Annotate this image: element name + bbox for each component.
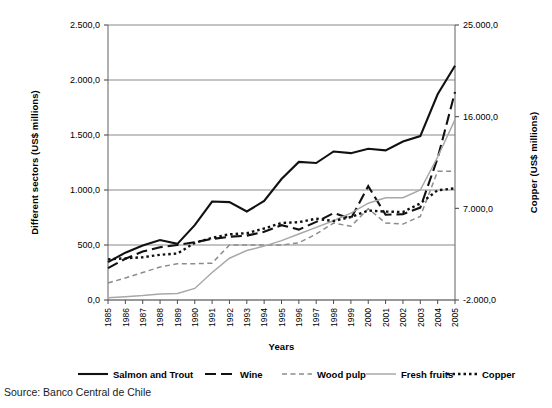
x-tick-label: 2005 <box>450 308 460 327</box>
x-tick-label: 1997 <box>311 308 321 327</box>
y-axis-title: Different sectors (US$ millions) <box>29 90 40 235</box>
x-axis-tick-labels: 1985198619871988198919901991199219931994… <box>103 308 460 327</box>
y-tick-label: 2.000,0 <box>70 75 100 85</box>
y-tick-label: 1.500,0 <box>70 130 100 140</box>
x-tick-label: 2004 <box>433 308 443 327</box>
y-tick-label: 500,0 <box>77 240 100 250</box>
line-chart: 0,0500,01.000,01.500,02.000,02.500,0 -2.… <box>0 0 552 408</box>
x-tick-label: 1992 <box>225 308 235 327</box>
x-tick-label: 1996 <box>294 308 304 327</box>
x-axis-ticks <box>108 300 455 304</box>
series-line-fresh-fruits <box>108 120 455 298</box>
legend-label-copper: Copper <box>482 369 516 380</box>
legend-label-salmon-and-trout: Salmon and Trout <box>113 369 194 380</box>
x-tick-label: 1998 <box>329 308 339 327</box>
y2-axis-ticks: -2.000,07.000,016.000,025.000,0 <box>455 20 498 305</box>
x-tick-label: 2002 <box>398 308 408 327</box>
chart-legend: Salmon and TroutWineWood pulpFresh fruit… <box>78 369 516 380</box>
y2-tick-label: 7.000,0 <box>463 204 493 214</box>
legend-label-wood-pulp: Wood pulp <box>317 369 366 380</box>
chart-figure: 0,0500,01.000,01.500,02.000,02.500,0 -2.… <box>0 0 552 408</box>
data-series <box>108 66 455 298</box>
y2-tick-label: 16.000,0 <box>463 112 498 122</box>
series-line-wood-pulp <box>108 171 455 283</box>
y2-axis-title: Copper (US$ millions) <box>528 112 539 213</box>
x-tick-label: 1999 <box>346 308 356 327</box>
plot-border <box>108 25 455 300</box>
legend-label-fresh-fruits: Fresh fruits <box>401 369 453 380</box>
x-tick-label: 1995 <box>277 308 287 327</box>
x-tick-label: 2003 <box>416 308 426 327</box>
y-tick-label: 2.500,0 <box>70 20 100 30</box>
y2-tick-label: 25.000,0 <box>463 20 498 30</box>
x-tick-label: 2001 <box>381 308 391 327</box>
x-axis-title: Years <box>269 341 295 352</box>
y-tick-label: 1.000,0 <box>70 185 100 195</box>
y-tick-label: 0,0 <box>87 295 100 305</box>
y2-tick-label: -2.000,0 <box>463 295 496 305</box>
y-axis-ticks: 0,0500,01.000,01.500,02.000,02.500,0 <box>70 20 108 305</box>
x-tick-label: 1990 <box>190 308 200 327</box>
x-tick-label: 1993 <box>242 308 252 327</box>
x-tick-label: 2000 <box>363 308 373 327</box>
x-tick-label: 1987 <box>138 308 148 327</box>
series-line-salmon-and-trout <box>108 66 455 262</box>
x-tick-label: 1991 <box>207 308 217 327</box>
legend-label-wine: Wine <box>240 369 263 380</box>
x-tick-label: 1989 <box>173 308 183 327</box>
x-tick-label: 1985 <box>103 308 113 327</box>
x-tick-label: 1988 <box>155 308 165 327</box>
gridlines <box>108 25 455 300</box>
source-caption: Source: Banco Central de Chile <box>4 386 151 398</box>
x-tick-label: 1986 <box>121 308 131 327</box>
x-tick-label: 1994 <box>259 308 269 327</box>
